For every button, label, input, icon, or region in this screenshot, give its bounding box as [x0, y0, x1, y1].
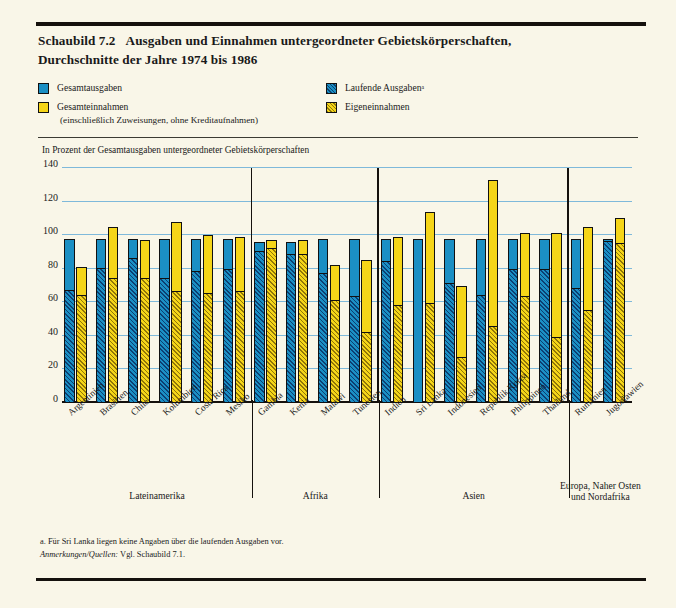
bar-groups — [62, 168, 632, 403]
page-title: Schaubild 7.2Ausgaben und Einnahmen unte… — [38, 32, 638, 69]
bar-gesamteinnahmen[interactable] — [488, 180, 499, 403]
bar-group[interactable] — [413, 168, 436, 403]
bar-gesamtausgaben[interactable] — [64, 239, 75, 404]
bar-gesamtausgaben[interactable] — [128, 239, 139, 404]
bar-group[interactable] — [159, 168, 182, 403]
bottom-rule — [36, 578, 646, 581]
bar-group[interactable] — [381, 168, 404, 403]
bar-laufende-ausgaben — [129, 258, 138, 402]
y-tick-label-20: 20 — [28, 359, 58, 370]
bar-laufende-ausgaben — [255, 251, 264, 402]
bar-group[interactable] — [508, 168, 531, 403]
bar-gesamteinnahmen[interactable] — [393, 237, 404, 403]
bar-gesamteinnahmen[interactable] — [330, 265, 341, 403]
footnote-a: a. Für Sri Lanka liegen keine Angaben üb… — [40, 536, 620, 549]
bar-laufende-ausgaben — [160, 278, 169, 402]
title-line-1: Ausgaben und Einnahmen untergeordneter G… — [126, 33, 512, 48]
bar-gesamtausgaben[interactable] — [159, 239, 170, 404]
bar-gesamteinnahmen[interactable] — [551, 233, 562, 403]
y-axis-caption: In Prozent der Gesamtausgaben untergeord… — [42, 145, 309, 155]
bar-gesamtausgaben[interactable] — [571, 239, 582, 404]
y-tick-label-120: 120 — [28, 191, 58, 202]
legend-label-2: Laufende Ausgabenᵃ — [345, 82, 424, 94]
bar-group[interactable] — [476, 168, 499, 403]
legend-label-3: Eigeneinnahmen — [345, 101, 409, 113]
y-tick-label-140: 140 — [28, 158, 58, 169]
bar-gesamteinnahmen[interactable] — [171, 222, 182, 403]
bar-eigeneinnahmen — [299, 254, 308, 402]
source-line: Anmerkungen/Quellen: Vgl. Schaubild 7.1. — [40, 549, 620, 562]
bar-gesamtausgaben[interactable] — [603, 239, 614, 404]
bar-laufende-ausgaben — [572, 288, 581, 402]
bar-eigeneinnahmen — [267, 248, 276, 402]
bar-group[interactable] — [286, 168, 309, 403]
bar-gesamtausgaben[interactable] — [223, 239, 234, 404]
bar-gesamtausgaben[interactable] — [476, 239, 487, 404]
yellow-solid-swatch-icon — [38, 102, 49, 113]
bar-gesamteinnahmen[interactable] — [615, 218, 626, 403]
bar-gesamtausgaben[interactable] — [444, 239, 455, 404]
top-rule — [36, 22, 646, 26]
bar-gesamtausgaben[interactable] — [539, 239, 550, 404]
bar-group[interactable] — [96, 168, 119, 403]
y-tick-label-60: 60 — [28, 292, 58, 303]
region-label: Europa, Naher Ostenund Nordafrika — [520, 480, 676, 502]
bar-eigeneinnahmen — [172, 291, 181, 402]
bar-laufende-ausgaben — [382, 261, 391, 402]
legend: Gesamtausgaben Gesamteinnahmen (einschli… — [38, 80, 638, 132]
bar-group[interactable] — [603, 168, 626, 403]
bar-gesamteinnahmen[interactable] — [76, 267, 87, 403]
bar-gesamteinnahmen[interactable] — [583, 227, 594, 403]
bar-group[interactable] — [254, 168, 277, 403]
blue-solid-swatch-icon — [38, 83, 49, 94]
bar-gesamteinnahmen[interactable] — [266, 240, 277, 403]
bar-laufende-ausgaben — [350, 296, 359, 402]
legend-divider — [38, 137, 638, 138]
bar-eigeneinnahmen — [331, 300, 340, 402]
y-tick-label-40: 40 — [28, 325, 58, 336]
legend-label-0: Gesamtausgaben — [57, 82, 122, 94]
bar-gesamteinnahmen[interactable] — [361, 260, 372, 403]
bar-gesamteinnahmen[interactable] — [140, 240, 151, 403]
bar-gesamtausgaben[interactable] — [286, 242, 297, 403]
bar-gesamteinnahmen[interactable] — [425, 212, 436, 403]
bar-eigeneinnahmen — [616, 243, 625, 402]
bar-gesamtausgaben[interactable] — [413, 239, 424, 404]
bar-laufende-ausgaben — [604, 241, 613, 402]
bar-gesamteinnahmen[interactable] — [203, 235, 214, 403]
region-separator — [251, 168, 252, 403]
bar-gesamteinnahmen[interactable] — [298, 240, 309, 403]
bar-gesamtausgaben[interactable] — [254, 242, 265, 403]
bar-eigeneinnahmen — [236, 291, 245, 402]
bar-gesamteinnahmen[interactable] — [108, 227, 119, 403]
bar-group[interactable] — [539, 168, 562, 403]
bar-gesamtausgaben[interactable] — [191, 239, 202, 404]
bar-group[interactable] — [191, 168, 214, 403]
bar-group[interactable] — [444, 168, 467, 403]
bar-laufende-ausgaben — [287, 254, 296, 402]
bar-laufende-ausgaben — [445, 283, 454, 402]
legend-item-gesamteinnahmen: Gesamteinnahmen (einschließlich Zuweisun… — [38, 101, 258, 127]
bar-group[interactable] — [349, 168, 372, 403]
legend-item-laufende-ausgaben: Laufende Ausgabenᵃ — [326, 82, 424, 94]
bar-group[interactable] — [318, 168, 341, 403]
bar-group[interactable] — [64, 168, 87, 403]
bar-gesamteinnahmen[interactable] — [235, 237, 246, 403]
bar-gesamtausgaben[interactable] — [96, 239, 107, 404]
bar-gesamtausgaben[interactable] — [349, 239, 360, 404]
bar-laufende-ausgaben — [65, 290, 74, 402]
legend-item-eigeneinnahmen: Eigeneinnahmen — [326, 101, 409, 113]
bar-group[interactable] — [223, 168, 246, 403]
figure-page: Schaubild 7.2Ausgaben und Einnahmen unte… — [0, 0, 676, 608]
bar-laufende-ausgaben — [224, 269, 233, 402]
bar-group[interactable] — [128, 168, 151, 403]
bar-gesamtausgaben[interactable] — [318, 239, 329, 404]
bar-laufende-ausgaben — [319, 273, 328, 402]
bar-group[interactable] — [571, 168, 594, 403]
plot-area — [62, 168, 632, 403]
bar-gesamteinnahmen[interactable] — [456, 286, 467, 404]
bar-gesamtausgaben[interactable] — [381, 239, 392, 404]
blue-hatched-swatch-icon — [326, 83, 337, 94]
y-tick-label-100: 100 — [28, 225, 58, 236]
bar-eigeneinnahmen — [489, 326, 498, 402]
